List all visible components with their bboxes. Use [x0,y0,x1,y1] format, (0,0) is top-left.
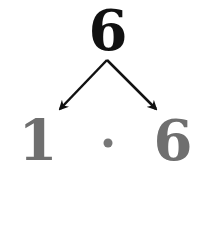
left-arrow-icon [60,60,107,109]
factor-right: 6 [148,112,198,168]
factor-left: 1 [14,112,62,168]
right-arrow-icon [107,60,156,109]
multiplication-dot-icon [104,139,113,148]
